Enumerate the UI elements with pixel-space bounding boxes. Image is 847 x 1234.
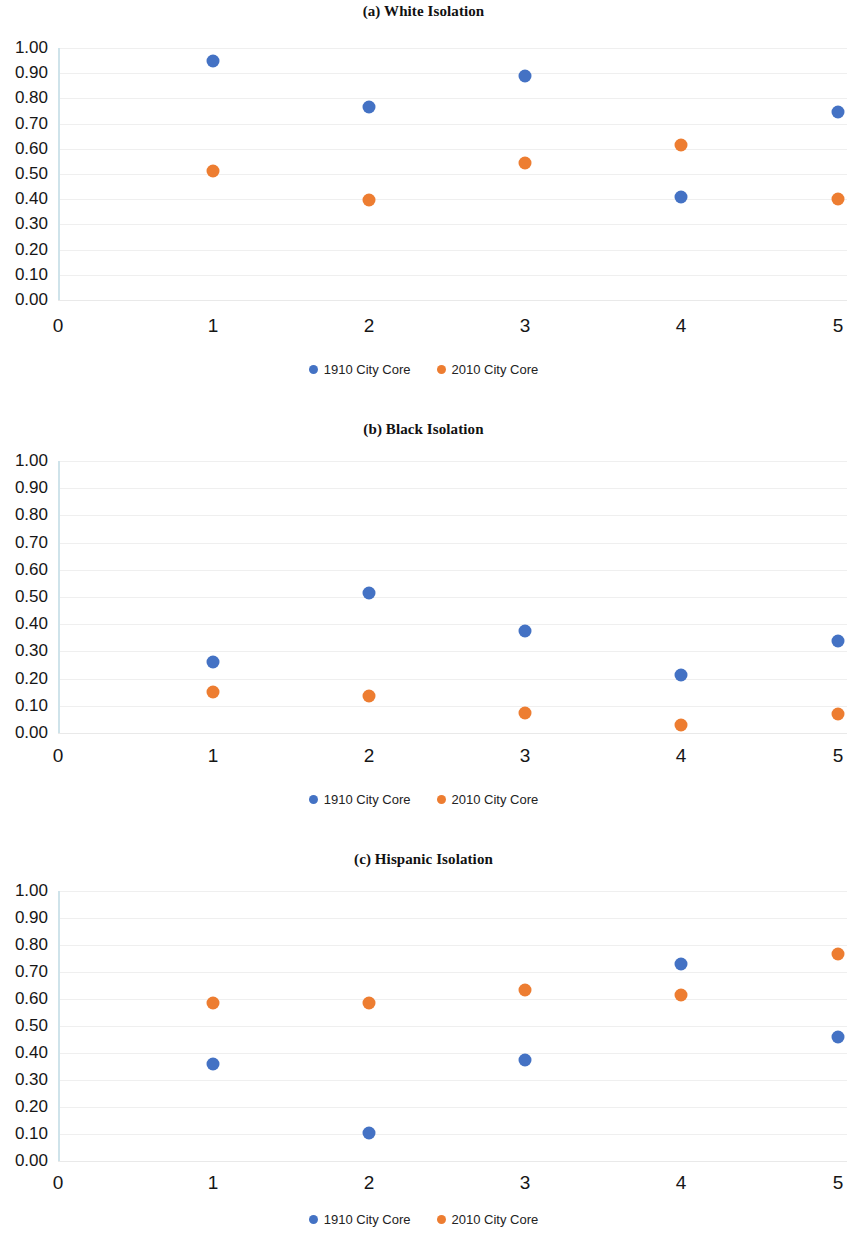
x-axis-tick-label: 3	[520, 745, 531, 767]
legend-item[interactable]: 1910 City Core	[309, 1212, 411, 1227]
x-axis-tick-label: 0	[53, 315, 64, 337]
y-axis-tick-label: 0.10	[0, 265, 48, 285]
legend-marker-icon	[309, 795, 318, 804]
legend-marker-icon	[309, 365, 318, 374]
y-axis-tick-label: 1.00	[0, 451, 48, 471]
chart-legend: 1910 City Core2010 City Core	[0, 362, 847, 377]
gridline	[58, 1107, 847, 1108]
x-axis-tick-label: 2	[364, 315, 375, 337]
y-axis-tick-label: 0.60	[0, 989, 48, 1009]
gridline	[58, 1026, 847, 1027]
x-axis-tick-labels: 012345	[0, 1172, 847, 1202]
y-axis-tick-label: 1.00	[0, 881, 48, 901]
y-axis-tick-label: 0.00	[0, 290, 48, 310]
data-point	[675, 957, 688, 970]
gridline	[58, 945, 847, 946]
y-axis-tick-label: 0.60	[0, 139, 48, 159]
gridline	[58, 250, 847, 251]
chart-legend: 1910 City Core2010 City Core	[0, 792, 847, 807]
data-point	[832, 193, 845, 206]
x-axis-tick-label: 5	[833, 315, 844, 337]
data-point	[363, 101, 376, 114]
y-axis-tick-label: 0.30	[0, 1070, 48, 1090]
gridline	[58, 651, 847, 652]
y-axis-tick-label: 0.10	[0, 1124, 48, 1144]
legend-item[interactable]: 2010 City Core	[437, 362, 539, 377]
legend-item[interactable]: 1910 City Core	[309, 362, 411, 377]
data-point	[363, 690, 376, 703]
data-point	[675, 139, 688, 152]
panel-title: (b) Black Isolation	[0, 418, 847, 440]
y-axis-tick-label: 0.80	[0, 88, 48, 108]
data-point	[363, 1126, 376, 1139]
y-axis-tick-label: 0.60	[0, 560, 48, 580]
legend-label: 1910 City Core	[324, 792, 411, 807]
y-axis-tick-label: 0.50	[0, 587, 48, 607]
data-point	[832, 106, 845, 119]
legend-label: 1910 City Core	[324, 362, 411, 377]
data-point	[207, 54, 220, 67]
data-point	[207, 686, 220, 699]
legend-marker-icon	[437, 365, 446, 374]
y-axis-tick-label: 0.30	[0, 641, 48, 661]
panel-title: (c) Hispanic Isolation	[0, 848, 847, 870]
y-axis-tick-label: 0.00	[0, 723, 48, 743]
y-axis-tick-label: 0.70	[0, 533, 48, 553]
x-axis-tick-label: 0	[53, 1172, 64, 1194]
gridline	[58, 1053, 847, 1054]
x-axis-tick-label: 1	[208, 315, 219, 337]
legend-item[interactable]: 2010 City Core	[437, 1212, 539, 1227]
x-axis-tick-label: 3	[520, 315, 531, 337]
y-axis-tick-label: 0.80	[0, 935, 48, 955]
y-axis-tick-label: 0.40	[0, 189, 48, 209]
x-axis-tick-labels: 012345	[0, 315, 847, 345]
data-point	[207, 165, 220, 178]
gridline	[58, 461, 847, 462]
x-axis-tick-label: 2	[364, 745, 375, 767]
gridline	[58, 597, 847, 598]
legend-label: 2010 City Core	[452, 1212, 539, 1227]
gridline	[58, 999, 847, 1000]
legend-item[interactable]: 2010 City Core	[437, 792, 539, 807]
data-point	[832, 707, 845, 720]
gridline	[58, 124, 847, 125]
y-axis-tick-label: 0.70	[0, 114, 48, 134]
gridline	[58, 224, 847, 225]
data-point	[519, 69, 532, 82]
x-axis-tick-label: 4	[676, 315, 687, 337]
legend-marker-icon	[309, 1215, 318, 1224]
gridline	[58, 918, 847, 919]
legend-item[interactable]: 1910 City Core	[309, 792, 411, 807]
gridline	[58, 275, 847, 276]
y-axis-tick-label: 0.20	[0, 669, 48, 689]
gridline	[58, 706, 847, 707]
data-point	[832, 1030, 845, 1043]
data-point	[207, 656, 220, 669]
y-axis-tick-label: 0.00	[0, 1151, 48, 1171]
gridline	[58, 515, 847, 516]
y-axis-line	[58, 891, 60, 1161]
x-axis-tick-label: 1	[208, 1172, 219, 1194]
gridline	[58, 488, 847, 489]
legend-label: 2010 City Core	[452, 362, 539, 377]
data-point	[519, 983, 532, 996]
legend-label: 2010 City Core	[452, 792, 539, 807]
data-point	[519, 706, 532, 719]
data-point	[207, 1057, 220, 1070]
chart-legend: 1910 City Core2010 City Core	[0, 1212, 847, 1227]
data-point	[675, 988, 688, 1001]
gridline	[58, 174, 847, 175]
data-point	[363, 194, 376, 207]
gridline	[58, 73, 847, 74]
y-axis-tick-label: 0.10	[0, 696, 48, 716]
gridline	[58, 679, 847, 680]
gridline	[58, 98, 847, 99]
gridline	[58, 300, 847, 301]
panel-title: (a) White Isolation	[0, 0, 847, 22]
gridline	[58, 733, 847, 734]
y-axis-tick-label: 0.70	[0, 962, 48, 982]
data-point	[832, 948, 845, 961]
y-axis-tick-label: 0.40	[0, 614, 48, 634]
y-axis-tick-label: 0.90	[0, 63, 48, 83]
x-axis-tick-labels: 012345	[0, 745, 847, 775]
